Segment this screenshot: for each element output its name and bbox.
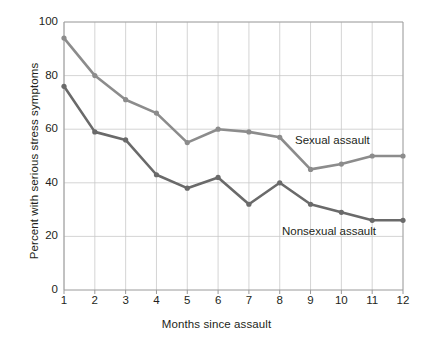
x-axis-title: Months since assault (0, 318, 433, 330)
line-chart: Percent with serious stress symptoms 100… (0, 0, 433, 342)
x-tick-label: 9 (296, 294, 326, 306)
x-tick-label: 12 (388, 294, 418, 306)
x-tick-label: 2 (80, 294, 110, 306)
x-tick-label: 5 (172, 294, 202, 306)
gridlines (64, 22, 403, 290)
x-tick-label: 4 (141, 294, 171, 306)
x-tick-label: 11 (357, 294, 387, 306)
x-tick-label: 1 (49, 294, 79, 306)
x-tick-label: 10 (326, 294, 356, 306)
x-tick-label: 8 (265, 294, 295, 306)
x-tick-label: 3 (111, 294, 141, 306)
x-tick-label: 6 (203, 294, 233, 306)
series-label-sexual-assault: Sexual assault (295, 134, 370, 146)
x-tick-label: 7 (234, 294, 264, 306)
plot-area (0, 0, 433, 342)
plot-frame (64, 22, 403, 290)
series-label-nonsexual-assault: Nonsexual assault (282, 225, 376, 237)
